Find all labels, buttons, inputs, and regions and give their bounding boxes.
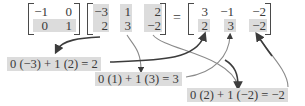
computation-label-2: 0 (1) + 1 (3) = 3 <box>95 72 182 86</box>
computation-label-1: 0 (−3) + 1 (2) = 2 <box>7 57 101 71</box>
computation-label-3: 0 (2) + 1 (−2) = −2 <box>187 88 288 102</box>
arrow-col1-to-calc1 <box>57 37 100 50</box>
arrow-calc1-to-result <box>110 36 204 62</box>
arrow-col2-to-calc2 <box>127 35 141 70</box>
arrow-calc2-to-result <box>186 36 230 77</box>
